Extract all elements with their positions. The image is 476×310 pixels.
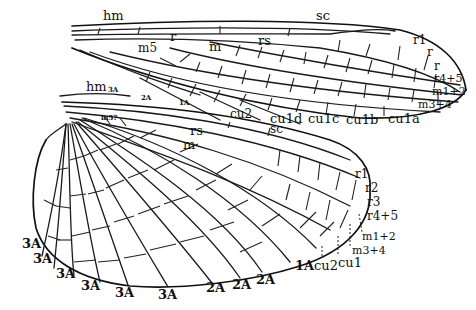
label-hindwing-1a-top: 1A — [179, 99, 189, 106]
label-hindwing-base-small: m5? — [101, 114, 117, 121]
label-hindwing-m1-2: m1+2 — [362, 231, 396, 242]
label-forewing-cu1a: cu1a — [388, 112, 420, 125]
label-hindwing-3a-6: 3A — [158, 288, 177, 301]
label-hindwing-rs: rs — [190, 124, 203, 137]
label-hindwing-3a-top: 3A — [108, 86, 118, 93]
label-hindwing-r2: r2 — [365, 182, 378, 194]
label-hindwing-hm: hm — [86, 80, 107, 93]
label-hindwing-3a-4: 3A — [81, 279, 100, 292]
label-hindwing-3a-5: 3A — [115, 286, 134, 299]
label-hindwing-sc: sc — [270, 123, 283, 135]
label-forewing-rs: rs — [258, 34, 271, 47]
label-hindwing-3a-1: 3A — [22, 237, 41, 250]
label-hindwing-1a: 1A — [295, 259, 314, 272]
label-forewing-r3: r — [434, 60, 440, 72]
label-hindwing-3a-3: 3A — [56, 267, 75, 280]
label-forewing-hm: hm — [103, 9, 124, 22]
label-forewing-sc: sc — [316, 9, 330, 22]
label-hindwing-2a-1: 2A — [206, 281, 225, 294]
label-hindwing-cu1: cu1 — [338, 256, 362, 269]
label-hindwing-r1: r1 — [355, 168, 368, 180]
label-hindwing-r4-5: r4+5 — [367, 210, 398, 222]
label-forewing-r4-5: r4+5 — [434, 73, 462, 84]
label-forewing-m3-4: m3+4 — [418, 99, 452, 110]
label-hindwing-3a-2: 3A — [33, 252, 52, 265]
wing-drawing — [0, 0, 476, 310]
label-hindwing-2a-top: 2A — [141, 94, 151, 101]
label-hindwing-r3: r3 — [367, 196, 380, 208]
label-forewing-cu1b: cu1b — [346, 113, 378, 126]
label-forewing-r: r — [170, 30, 176, 43]
label-forewing-r1: r1 — [413, 34, 426, 46]
label-hindwing-cu2-top: cu2 — [230, 108, 252, 120]
wing-venation-diagram: hm sc r m5 m rs r1 r r r4+5 m1+2 m3+4 cu… — [0, 0, 476, 310]
label-hindwing-cu2: cu2 — [314, 259, 338, 272]
label-forewing-r2: r — [427, 46, 433, 58]
label-hindwing-2a-2: 2A — [232, 278, 251, 291]
label-forewing-m1-2: m1+2 — [432, 86, 466, 97]
label-forewing-m: m — [209, 40, 221, 53]
label-hindwing-m: m — [183, 138, 195, 151]
label-hindwing-2a-3: 2A — [256, 273, 275, 286]
label-forewing-cu1c: cu1c — [308, 112, 339, 125]
label-forewing-m5: m5 — [138, 42, 157, 54]
